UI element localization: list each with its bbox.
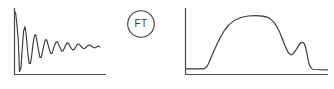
time-domain-plot <box>0 0 118 89</box>
time-domain-panel <box>0 0 118 89</box>
time-domain-trace <box>16 12 100 72</box>
ft-operator-label: FT <box>126 9 156 39</box>
frequency-domain-trace <box>187 16 328 70</box>
frequency-domain-plot <box>180 0 334 89</box>
fourier-transform-figure: FT <box>0 0 334 89</box>
frequency-domain-panel <box>180 0 334 89</box>
